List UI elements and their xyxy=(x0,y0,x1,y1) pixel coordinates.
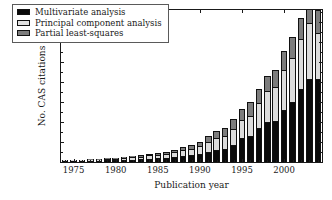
bar-1999 xyxy=(272,70,279,162)
bar-segment xyxy=(272,87,279,121)
bar-segment xyxy=(281,51,288,70)
x-axis-minor-tick xyxy=(225,160,226,162)
x-axis-tick xyxy=(242,159,243,162)
bar-segment xyxy=(264,122,271,162)
x-axis-minor-tick xyxy=(90,160,91,162)
x-axis-tick-label: 2000 xyxy=(273,166,295,175)
x-axis-minor-tick xyxy=(107,160,108,162)
y-axis-minor-tick xyxy=(61,92,63,93)
bar-segment xyxy=(298,18,305,40)
bar-segment xyxy=(247,116,254,137)
x-axis-minor-tick xyxy=(192,160,193,162)
y-axis-tick xyxy=(61,162,64,163)
bar-segment xyxy=(247,102,254,115)
y-axis-minor-tick xyxy=(320,112,322,113)
legend-swatch-pls xyxy=(17,30,30,36)
x-axis-minor-tick xyxy=(166,160,167,162)
y-axis-minor-tick xyxy=(320,72,322,73)
bar-1997 xyxy=(256,89,263,162)
bar-segment xyxy=(272,121,279,162)
bar-segment xyxy=(197,146,204,154)
x-axis-tick-label: 1975 xyxy=(63,166,85,175)
x-axis-minor-tick xyxy=(82,160,83,162)
y-axis-minor-tick xyxy=(320,152,322,153)
x-axis-minor-tick xyxy=(259,160,260,162)
bar-segment xyxy=(256,89,263,103)
x-axis-minor-tick xyxy=(133,160,134,162)
bar-segment xyxy=(298,89,305,162)
bar-segment xyxy=(281,70,288,110)
bar-1991 xyxy=(205,136,212,162)
y-axis-tick xyxy=(319,102,322,103)
y-axis-tick xyxy=(61,82,64,83)
x-axis-tick xyxy=(158,159,159,162)
x-axis-minor-tick xyxy=(183,160,184,162)
x-axis-minor-tick xyxy=(234,160,235,162)
bar-1996 xyxy=(247,102,254,162)
bar-segment xyxy=(239,109,246,121)
bar-1992 xyxy=(213,131,220,162)
bar-segment xyxy=(306,23,313,80)
bar-segment xyxy=(272,70,279,87)
y-axis-tick xyxy=(319,22,322,23)
bar-2003 xyxy=(306,10,313,162)
x-axis-tick-label: 1985 xyxy=(147,166,169,175)
x-axis-minor-tick xyxy=(250,160,251,162)
legend-label: Partial least-squares xyxy=(35,29,123,38)
bar-1993 xyxy=(222,128,229,162)
bar-segment xyxy=(239,120,246,137)
bar-segment xyxy=(222,128,229,136)
y-axis-minor-tick xyxy=(320,32,322,33)
x-axis-minor-tick xyxy=(124,160,125,162)
y-axis-tick xyxy=(61,62,64,63)
x-axis-minor-tick xyxy=(65,160,66,162)
bar-segment xyxy=(230,129,237,145)
legend-item: Partial least-squares xyxy=(17,28,162,39)
bar-1994 xyxy=(230,119,237,162)
x-axis-minor-tick xyxy=(141,160,142,162)
x-axis-tick-label: 1980 xyxy=(105,166,127,175)
bar-segment xyxy=(213,131,220,138)
bar-2001 xyxy=(289,37,296,162)
y-axis-tick xyxy=(319,142,322,143)
bar-segment xyxy=(289,102,296,162)
x-axis-tick-label: 1990 xyxy=(189,166,211,175)
bar-segment xyxy=(230,119,237,129)
x-axis-tick xyxy=(200,159,201,162)
x-axis-tick-label: 1995 xyxy=(231,166,253,175)
y-axis-tick xyxy=(61,122,64,123)
x-axis-minor-tick xyxy=(276,160,277,162)
bar-segment xyxy=(256,103,263,129)
bar-segment xyxy=(222,136,229,149)
y-axis-minor-tick xyxy=(61,112,63,113)
bar-segment xyxy=(256,128,263,162)
bar-2002 xyxy=(298,18,305,162)
x-axis-minor-tick xyxy=(175,160,176,162)
x-axis-minor-tick xyxy=(309,160,310,162)
x-axis-tick xyxy=(74,159,75,162)
y-axis-minor-tick xyxy=(320,92,322,93)
x-axis-tick xyxy=(284,10,285,13)
bar-2000 xyxy=(281,51,288,162)
x-axis-title: Publication year xyxy=(60,181,323,190)
x-axis-minor-tick xyxy=(301,160,302,162)
figure-stacked-bar-chart: No. CAS citations Publication year 05001… xyxy=(0,0,332,200)
legend-swatch-mva xyxy=(17,9,30,15)
y-axis-tick xyxy=(319,122,322,123)
bar-segment xyxy=(213,138,220,150)
chart-legend: Multivariate analysisPrincipal component… xyxy=(12,4,169,43)
legend-swatch-pca xyxy=(17,20,30,26)
y-axis-minor-tick xyxy=(320,132,322,133)
y-axis-minor-tick xyxy=(61,132,63,133)
y-axis-minor-tick xyxy=(320,12,322,13)
y-axis-tick xyxy=(61,102,64,103)
bar-segment xyxy=(306,79,313,162)
x-axis-minor-tick xyxy=(267,160,268,162)
bar-segment xyxy=(188,149,195,156)
x-axis-minor-tick xyxy=(318,160,319,162)
x-axis-tick xyxy=(284,159,285,162)
x-axis-minor-tick xyxy=(149,160,150,162)
x-axis-minor-tick xyxy=(217,160,218,162)
y-axis-tick xyxy=(319,42,322,43)
y-axis-title: No. CAS citations xyxy=(38,46,47,127)
